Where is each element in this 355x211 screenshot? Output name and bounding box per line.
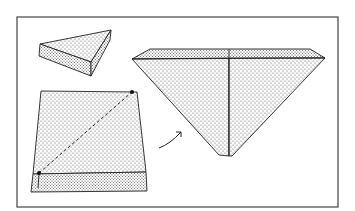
fold-dot-top bbox=[130, 90, 134, 94]
illustration-canvas bbox=[0, 0, 355, 211]
fold-arrow bbox=[159, 132, 181, 148]
square-block-with-diagonal bbox=[31, 90, 147, 192]
triangular-wedge bbox=[39, 30, 111, 76]
inverted-pyramid bbox=[132, 49, 325, 156]
